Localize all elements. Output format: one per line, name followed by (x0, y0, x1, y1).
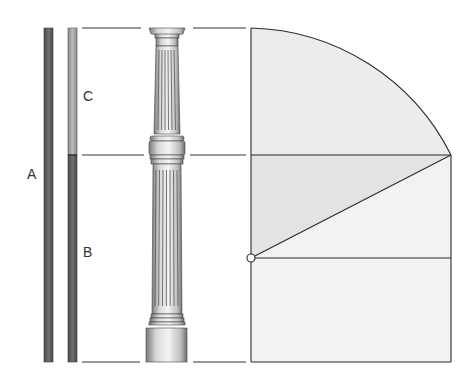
diagram-canvas (0, 0, 473, 378)
segment-a-bar (44, 28, 53, 362)
segment-b-bar (68, 155, 77, 362)
label-b: B (83, 244, 92, 260)
golden-section-construction (247, 28, 451, 362)
label-c: C (83, 88, 93, 104)
fluted-column (146, 28, 187, 362)
segment-c-bar (68, 28, 77, 155)
pivot-point (247, 254, 255, 262)
quarter-arc-region (251, 28, 451, 155)
label-a: A (27, 166, 36, 182)
